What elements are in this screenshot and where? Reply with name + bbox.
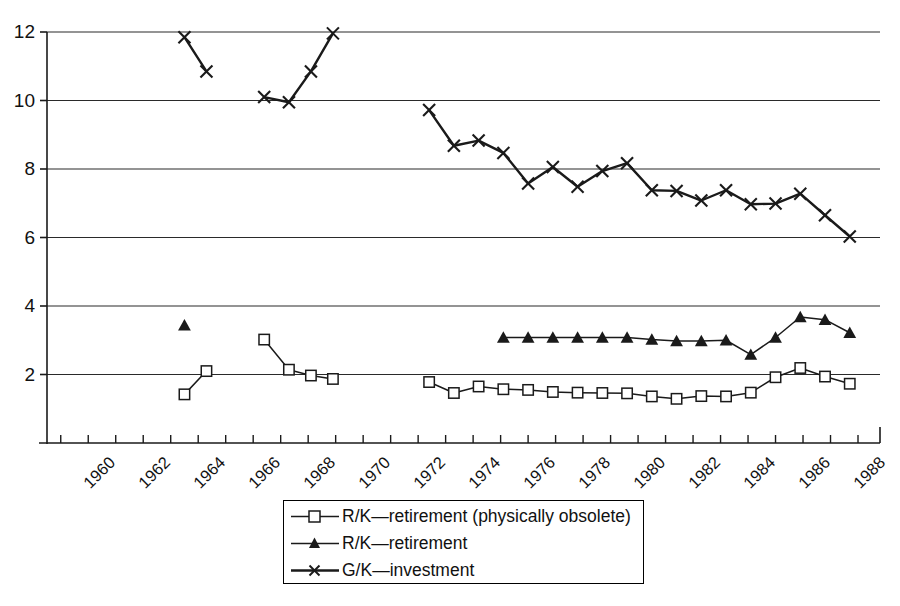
cross-x-marker-icon bbox=[288, 557, 342, 584]
data-point-open-square bbox=[179, 389, 189, 399]
series-3 bbox=[178, 27, 855, 242]
data-point-open-square bbox=[696, 391, 706, 401]
series-line bbox=[429, 368, 850, 399]
y-axis-tick-label: 2 bbox=[0, 365, 35, 384]
data-point-open-square bbox=[424, 377, 434, 387]
y-axis-tick-label: 12 bbox=[0, 22, 35, 41]
data-point-open-square bbox=[449, 388, 459, 398]
data-point-open-square bbox=[498, 384, 508, 394]
legend-item-label: G/K—investment bbox=[342, 562, 474, 580]
data-point-open-square bbox=[845, 379, 855, 389]
legend-item-label: R/K—retirement (physically obsolete) bbox=[342, 508, 631, 526]
data-point-open-square bbox=[201, 366, 211, 376]
series-line bbox=[429, 110, 850, 236]
data-point-filled-triangle bbox=[744, 348, 757, 359]
series-1 bbox=[179, 334, 855, 404]
legend-item: R/K—retirement (physically obsolete) bbox=[288, 503, 643, 530]
data-point-open-square bbox=[523, 385, 533, 395]
data-point-open-square bbox=[746, 387, 756, 397]
series-line bbox=[264, 33, 333, 102]
data-point-open-square bbox=[548, 387, 558, 397]
filled-triangle-marker-icon bbox=[288, 530, 342, 557]
series-2 bbox=[178, 311, 856, 360]
open-square-marker-icon bbox=[288, 503, 342, 530]
data-point-filled-triangle bbox=[178, 319, 191, 330]
data-point-open-square bbox=[597, 388, 607, 398]
data-point-open-square bbox=[306, 370, 316, 380]
series-line bbox=[264, 340, 333, 379]
data-point-open-square bbox=[473, 381, 483, 391]
data-point-open-square bbox=[622, 388, 632, 398]
y-axis-tick-label: 4 bbox=[0, 296, 35, 315]
data-point-open-square bbox=[671, 394, 681, 404]
y-axis-tick-label: 6 bbox=[0, 228, 35, 247]
data-point-open-square bbox=[770, 372, 780, 382]
legend-item: G/K—investment bbox=[288, 557, 643, 584]
y-axis-tick-label: 8 bbox=[0, 159, 35, 178]
data-point-open-square bbox=[820, 371, 830, 381]
data-point-open-square bbox=[572, 387, 582, 397]
chart-figure: 24681012 1960196219641966196819701972197… bbox=[0, 0, 900, 606]
data-point-open-square bbox=[795, 363, 805, 373]
data-point-open-square bbox=[259, 334, 269, 344]
data-point-filled-triangle bbox=[843, 327, 856, 338]
series-line bbox=[184, 37, 206, 71]
data-point-open-square bbox=[284, 365, 294, 375]
legend-item: R/K—retirement bbox=[288, 530, 643, 557]
data-point-open-square bbox=[328, 374, 338, 384]
chart-legend: R/K—retirement (physically obsolete) R/K… bbox=[283, 500, 644, 584]
y-axis-tick-label: 10 bbox=[0, 91, 35, 110]
legend-item-label: R/K—retirement bbox=[342, 535, 467, 553]
data-point-open-square bbox=[721, 391, 731, 401]
data-point-filled-triangle bbox=[794, 311, 807, 322]
data-point-open-square bbox=[647, 391, 657, 401]
